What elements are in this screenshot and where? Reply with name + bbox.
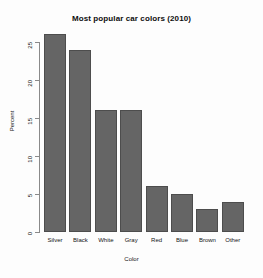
x-axis-title: Color — [0, 256, 263, 263]
y-axis-tick — [35, 118, 39, 119]
y-axis-title: Percent — [9, 91, 15, 151]
y-axis-tick-label: 5 — [27, 194, 33, 214]
y-axis-tick-label: 15 — [27, 118, 33, 138]
bar-black — [69, 50, 91, 232]
y-axis-tick-label: 20 — [27, 80, 33, 100]
y-axis-tick — [35, 156, 39, 157]
bar-blue — [171, 194, 193, 232]
x-axis-label-other: Other — [216, 237, 250, 244]
y-axis-tick-label: 25 — [27, 42, 33, 62]
y-axis-tick — [35, 80, 39, 81]
bar-brown — [196, 209, 218, 232]
bar-silver — [44, 34, 66, 232]
bar-chart: Most popular car colors (2010) 051015202… — [0, 0, 263, 278]
y-axis-tick — [35, 194, 39, 195]
y-axis-tick — [35, 42, 39, 43]
y-axis-tick-label: 0 — [27, 232, 33, 252]
bar-series — [44, 32, 248, 232]
bar-other — [222, 202, 244, 232]
bar-gray — [120, 110, 142, 232]
y-axis-tick-label: 10 — [27, 156, 33, 176]
chart-title: Most popular car colors (2010) — [0, 14, 263, 24]
bar-white — [95, 110, 117, 232]
y-axis-line — [39, 42, 40, 233]
bar-red — [146, 186, 168, 232]
y-axis-tick — [35, 232, 39, 233]
